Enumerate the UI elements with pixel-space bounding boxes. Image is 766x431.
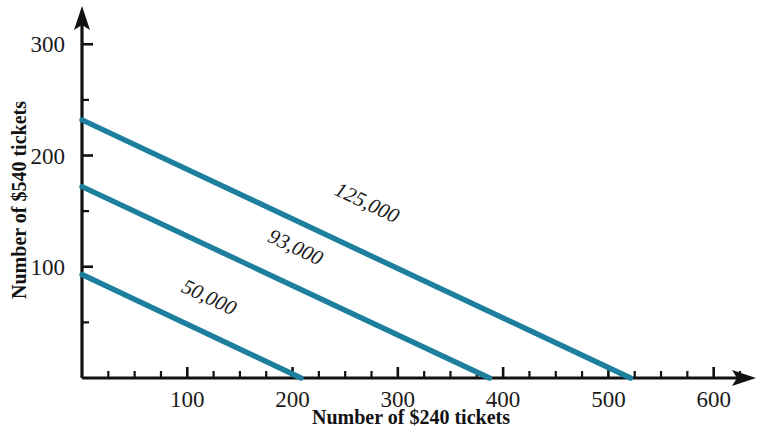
x-tick-label: 500 bbox=[591, 387, 626, 412]
x-tick-label: 600 bbox=[696, 387, 731, 412]
budget-line bbox=[82, 120, 631, 378]
budget-constraint-chart: 100200300 100200300400500600 50,00093,00… bbox=[0, 0, 766, 431]
y-axis-title: Number of $540 tickets bbox=[8, 101, 30, 299]
x-tick-marks bbox=[108, 367, 740, 378]
y-tick-labels: 100200300 bbox=[31, 32, 66, 280]
budget-line-label: 50,000 bbox=[178, 274, 241, 321]
y-axis-group: 100200300 bbox=[31, 6, 94, 378]
x-tick-label: 100 bbox=[170, 387, 205, 412]
y-tick-label: 200 bbox=[31, 144, 66, 169]
y-tick-label: 300 bbox=[31, 32, 66, 57]
budget-line-label: 125,000 bbox=[331, 177, 403, 228]
x-tick-label: 200 bbox=[275, 387, 310, 412]
chart-canvas: 100200300 100200300400500600 50,00093,00… bbox=[0, 0, 766, 431]
y-tick-label: 100 bbox=[31, 255, 66, 280]
x-axis-title: Number of $240 tickets bbox=[312, 406, 510, 428]
budget-lines-group bbox=[82, 120, 631, 378]
